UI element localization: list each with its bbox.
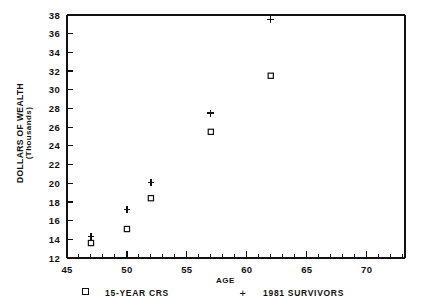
y-axis-tick-label: 32: [49, 66, 60, 77]
y-axis-tick-label: 36: [49, 28, 60, 39]
x-axis-tick-label: 50: [121, 264, 132, 275]
plot-canvas: 4550556065701214161820222426283032343638: [0, 0, 423, 308]
legend-label-survivors: 1981 SURVIVORS: [263, 288, 344, 298]
x-axis-tick-label: 70: [361, 264, 372, 275]
y-axis-tick-label: 24: [49, 140, 61, 151]
data-series-1: [88, 73, 273, 246]
data-point-square: [124, 226, 129, 231]
square-marker-icon: [78, 288, 92, 298]
legend-item-survivors: + 1981 SURVIVORS: [236, 288, 344, 298]
plus-marker-icon: +: [236, 288, 250, 298]
x-axis-title: AGE: [216, 276, 235, 285]
data-point-square: [148, 196, 153, 201]
data-point-square: [88, 240, 93, 245]
y-axis-tick-label: 30: [49, 84, 60, 95]
x-axis-tick-label: 60: [241, 264, 252, 275]
data-point-square: [268, 73, 273, 78]
y-axis-title: DOLLARS OF WEALTH (Thousands): [16, 38, 46, 228]
y-axis-tick-label: 20: [49, 178, 60, 189]
y-axis-tick-label: 34: [49, 47, 61, 58]
data-series-2: [88, 16, 275, 240]
y-axis-tick-label: 22: [49, 159, 60, 170]
scatter-chart-figure: 4550556065701214161820222426283032343638…: [0, 0, 423, 308]
y-axis-tick-label: 38: [49, 10, 60, 21]
x-axis-tick-label: 55: [181, 264, 193, 275]
y-axis-tick-label: 26: [49, 122, 60, 133]
data-point-square: [208, 129, 213, 134]
legend-label-crs: 15-YEAR CRS: [105, 288, 169, 298]
legend-item-crs: 15-YEAR CRS: [78, 288, 169, 298]
y-axis-title-units: (Thousands): [25, 38, 33, 228]
y-axis-tick-label: 16: [49, 215, 60, 226]
y-axis-tick-label: 28: [49, 103, 60, 114]
x-axis-tick-label: 45: [61, 264, 73, 275]
y-axis-tick-label: 12: [49, 253, 60, 264]
x-axis-tick-label: 65: [301, 264, 313, 275]
y-axis-tick-label: 14: [49, 234, 61, 245]
y-axis-tick-label: 18: [49, 197, 60, 208]
